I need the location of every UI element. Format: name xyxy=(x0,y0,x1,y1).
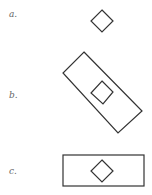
panel-b-inner-square xyxy=(91,81,113,104)
panel-a-diamond xyxy=(91,10,113,32)
panel-c-diamond xyxy=(91,160,113,182)
diagram-canvas xyxy=(0,0,152,195)
panel-b-rotated-rectangle xyxy=(63,52,142,133)
panel-c-rectangle xyxy=(63,155,144,186)
